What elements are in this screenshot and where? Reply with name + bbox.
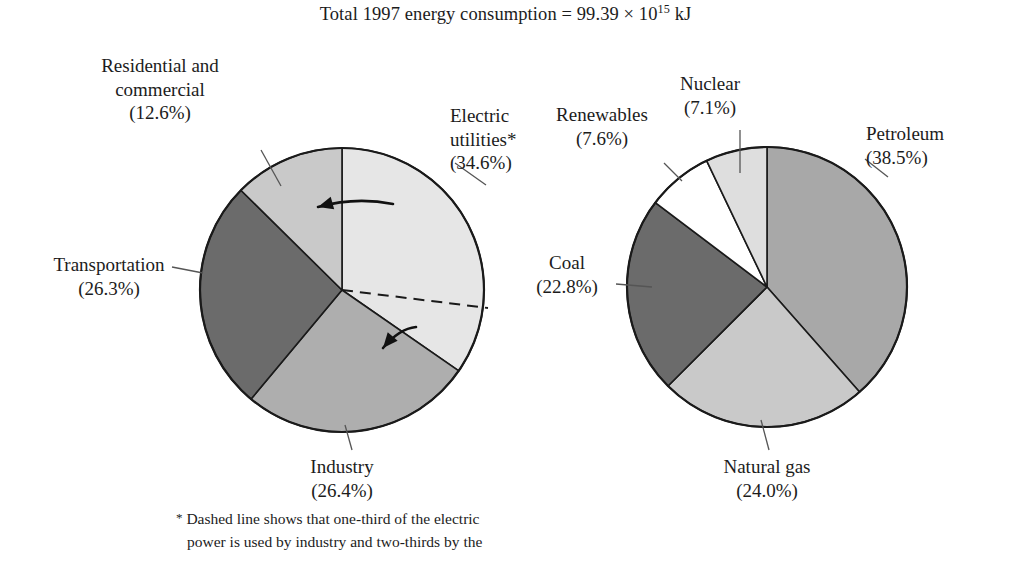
label-residential-and-commercial: Residential and commercial (12.6%) [78, 54, 242, 125]
label-line: utilities* [450, 128, 517, 152]
label-value: (26.4%) [258, 479, 426, 503]
energy-consumption-figure: Total 1997 energy consumption = 99.39 × … [0, 0, 1011, 564]
label-electric-utilities: Electric utilities* (34.6%) [450, 104, 517, 175]
label-renewables: Renewables (7.6%) [512, 103, 692, 150]
label-line: Electric [450, 104, 517, 128]
label-line: Nuclear [640, 72, 780, 96]
label-value: (12.6%) [78, 101, 242, 125]
pie-chart-by-source [627, 147, 907, 427]
label-line: Transportation [24, 253, 194, 277]
label-line: Natural gas [676, 455, 858, 479]
label-line: Renewables [512, 103, 692, 127]
label-line: Industry [258, 455, 426, 479]
label-value: (26.3%) [24, 277, 194, 301]
label-natural-gas: Natural gas (24.0%) [676, 455, 858, 502]
label-line: commercial [78, 78, 242, 102]
label-coal: Coal (22.8%) [508, 251, 626, 298]
label-value: (7.6%) [512, 127, 692, 151]
label-value: (34.6%) [450, 151, 517, 175]
label-line: Coal [508, 251, 626, 275]
label-industry: Industry (26.4%) [258, 455, 426, 502]
footnote: * Dashed line shows that one-third of th… [176, 507, 646, 553]
label-petroleum: Petroleum (38.5%) [866, 122, 1011, 169]
label-value: (22.8%) [508, 275, 626, 299]
label-transportation: Transportation (26.3%) [24, 253, 194, 300]
label-value: (38.5%) [866, 146, 1011, 170]
label-value: (24.0%) [676, 479, 858, 503]
footnote-line-2: power is used by industry and two-thirds… [176, 531, 646, 554]
leader-line [664, 163, 682, 181]
label-line: Petroleum [866, 122, 1011, 146]
footnote-line-1: Dashed line shows that one-third of the … [183, 510, 480, 527]
label-line: Residential and [78, 54, 242, 78]
